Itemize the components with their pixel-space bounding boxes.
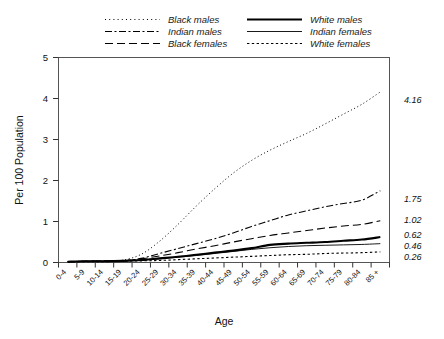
end-label-black-males: 4.16	[404, 95, 422, 105]
y-tick-label-2: 2	[43, 175, 48, 186]
end-label-black-females: 1.02	[404, 215, 422, 225]
end-label-indian-males: 1.75	[404, 194, 423, 204]
y-tick-label-5: 5	[43, 52, 48, 63]
legend-label-indian-males: Indian males	[168, 26, 222, 37]
legend-label-white-males: White males	[310, 14, 363, 25]
y-tick-label-3: 3	[43, 134, 48, 145]
y-tick-label-4: 4	[43, 93, 48, 104]
end-label-white-males: 0.62	[404, 230, 422, 240]
legend-label-indian-females: Indian females	[310, 26, 372, 37]
line-chart: Black males Indian males Black females W…	[0, 0, 444, 339]
end-label-white-females: 0.26	[404, 252, 422, 262]
y-axis-title: Per 100 Population	[13, 115, 25, 204]
legend-label-white-females: White females	[310, 38, 370, 49]
legend-label-black-females: Black females	[168, 38, 227, 49]
end-label-indian-females: 0.46	[404, 241, 422, 251]
x-axis-title: Age	[215, 315, 234, 327]
legend-label-black-males: Black males	[168, 14, 219, 25]
chart-container: Black males Indian males Black females W…	[0, 0, 444, 339]
y-tick-label-1: 1	[43, 216, 48, 227]
chart-background	[0, 0, 444, 339]
y-tick-label-0: 0	[43, 257, 48, 268]
